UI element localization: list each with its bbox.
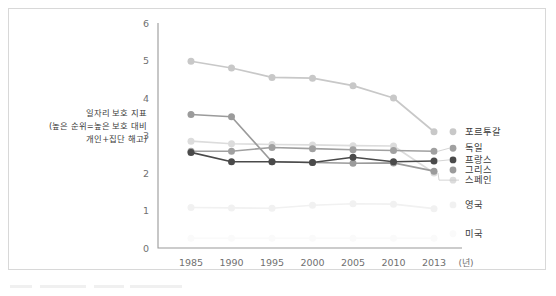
legend-marker-0 [450,128,457,135]
legend-marker-5 [450,201,457,208]
data-point [269,235,276,242]
series-label-6: 미국 [465,228,483,239]
series-line [191,61,434,132]
data-point [350,82,357,89]
y-axis-title-line: 개인+집단 해고) [86,134,147,144]
data-point [350,160,357,167]
series-group [188,58,438,242]
series-legend: 포르투갈독일프랑스그리스스페인영국미국 [438,126,501,239]
data-point [390,201,397,208]
data-point [309,145,316,152]
data-point [228,158,235,165]
x-axis-tick-labels: 1985199019952000200520102013(년) [179,257,474,268]
legend-marker-1 [450,145,457,152]
y-axis-title-line: (높은 순위=높은 보호 대비 [49,121,147,131]
data-point [228,140,235,147]
series-6 [188,235,438,242]
data-point [350,235,357,242]
x-tick-label: 2005 [341,257,365,268]
x-axis-unit-label: (년) [458,258,473,268]
data-point [431,235,438,242]
data-point [188,149,195,156]
x-tick-label: 1990 [219,257,243,268]
data-point [188,204,195,211]
data-point [188,138,195,145]
data-point [390,147,397,154]
data-point [309,75,316,82]
y-tick-label: 2 [143,168,149,179]
data-point [228,204,235,211]
x-tick-label: 2013 [422,257,446,268]
data-point [188,58,195,65]
y-tick-label: 6 [143,18,149,29]
legend-marker-6 [450,230,457,237]
data-point [390,235,397,242]
series-4 [188,138,438,177]
x-tick-label: 2000 [300,257,324,268]
series-label-4: 스페인 [465,174,492,185]
data-point [188,111,195,118]
data-point [390,158,397,165]
page-edge-artifact [10,282,190,291]
data-point [228,148,235,155]
data-point [309,202,316,209]
data-point [228,235,235,242]
data-point [350,154,357,161]
x-tick-label: 1995 [260,257,284,268]
y-tick-label: 4 [143,93,149,104]
data-point [188,235,195,242]
y-tick-label: 1 [143,205,149,216]
data-point [309,235,316,242]
data-point [269,144,276,151]
data-point [309,159,316,166]
series-label-5: 영국 [465,199,483,210]
data-point [269,74,276,81]
data-point [431,148,438,155]
data-point [431,128,438,135]
data-point [269,205,276,212]
chart-figure-frame: 01234561985199019952000200520102013(년)일자… [8,8,546,270]
data-point [390,95,397,102]
y-tick-label: 5 [143,55,149,66]
data-point [269,158,276,165]
x-tick-label: 2010 [381,257,405,268]
series-label-1: 독일 [465,142,483,153]
y-axis-title: 일자리 보호 지표(높은 순위=높은 보호 대비개인+집단 해고) [49,108,147,144]
series-label-0: 포르투갈 [465,126,501,137]
x-tick-label: 1985 [179,257,203,268]
data-point [431,168,438,175]
connector-line-1 [438,148,449,151]
y-axis-title-line: 일자리 보호 지표 [86,108,147,118]
data-point [350,146,357,153]
legend-marker-3 [450,167,457,174]
legend-marker-2 [450,156,457,163]
data-point [350,200,357,207]
y-tick-label: 0 [143,243,149,254]
line-chart: 01234561985199019952000200520102013(년)일자… [9,9,545,269]
axis-lines [158,23,462,248]
connector-line-2 [438,160,449,161]
data-point [228,113,235,120]
series-0 [188,58,438,136]
series-5 [188,200,438,212]
chart-axes [158,23,462,248]
data-point [431,158,438,165]
data-point [431,205,438,212]
data-point [228,65,235,72]
